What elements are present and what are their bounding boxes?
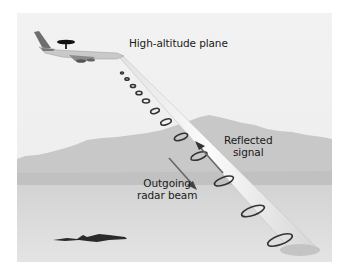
diagram-frame: High-altitude plane Reflected signal Out… <box>17 13 332 262</box>
reflected-label-line2: signal <box>224 146 272 158</box>
outgoing-beam-label: Outgoing radar beam <box>137 177 197 201</box>
radar-scene <box>17 13 332 262</box>
outgoing-label-line1: Outgoing <box>137 177 197 189</box>
reflected-label-line1: Reflected <box>224 134 272 146</box>
outgoing-label-line2: radar beam <box>137 189 197 201</box>
plane-label: High-altitude plane <box>129 37 228 49</box>
reflected-signal-label: Reflected signal <box>224 134 272 158</box>
beam-footprint <box>280 244 320 256</box>
